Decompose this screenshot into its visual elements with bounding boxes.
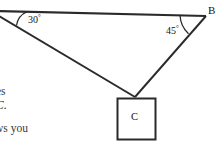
text-fragment-c-period: C. (0, 98, 7, 111)
text-fragment-ws-you: ws you (0, 123, 28, 135)
text-fragment-es: es (0, 86, 6, 98)
angle-label-45-value: 45 (166, 25, 176, 36)
angle-arc-30-icon (17, 12, 28, 26)
angle-arc-45-icon (180, 15, 189, 34)
left-diagonal-segment (0, 13, 135, 97)
box-label-c: C (131, 112, 138, 123)
angle-label-45: 45° (166, 25, 179, 36)
angle-label-30-value: 30 (28, 14, 38, 25)
angle-label-30: 30° (28, 14, 41, 25)
figure-page: B C 30° 45° es C. ws you (0, 0, 224, 145)
angle-label-45-degree-symbol: ° (176, 24, 179, 32)
vertex-label-b: B (208, 5, 215, 16)
angle-label-30-degree-symbol: ° (38, 13, 41, 21)
